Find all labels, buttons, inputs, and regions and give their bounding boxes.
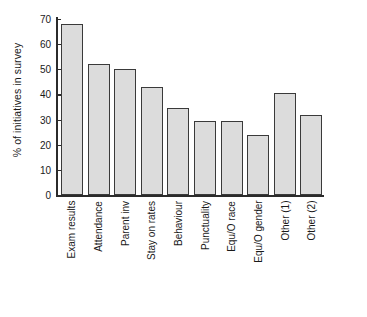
bar [300, 115, 322, 195]
plot-area: 010203040506070 [56, 19, 356, 195]
y-tick-label: 40 [40, 89, 51, 100]
bar [61, 24, 83, 195]
bars-layer [56, 19, 356, 195]
y-axis-title-text: % of initiatives in survey [11, 43, 23, 158]
bar [274, 93, 296, 195]
bar [221, 121, 243, 195]
x-axis-label: Equ/O gender [247, 199, 269, 309]
x-axis-label-text: Punctuality [200, 201, 211, 250]
y-tick-label: 0 [45, 190, 51, 201]
x-axis-label: Exam results [61, 199, 83, 309]
bar [194, 121, 216, 195]
bar-chart-figure: % of initiatives in survey 0102030405060… [0, 0, 367, 317]
x-axis-label: Behaviour [167, 199, 189, 309]
y-tick-mark [56, 195, 61, 196]
x-axis-label-text: Behaviour [173, 200, 184, 245]
x-axis-label-text: Parent inv [120, 200, 131, 245]
x-axis-label-text: Other (2) [306, 200, 317, 240]
y-axis-title: % of initiatives in survey [6, 0, 28, 200]
bar [167, 108, 189, 195]
x-axis-label: Other (2) [300, 199, 322, 309]
bar [141, 87, 163, 195]
x-axis-label-text: Attendance [93, 201, 104, 252]
x-axis-labels: Exam resultsAttendanceParent invStay on … [56, 199, 356, 317]
x-axis-line [56, 195, 324, 197]
x-axis-label-text: Other (1) [279, 200, 290, 240]
y-tick-label: 70 [40, 14, 51, 25]
x-axis-label: Punctuality [194, 199, 216, 309]
x-axis-label-text: Equ/O gender [253, 200, 264, 262]
y-tick-label: 30 [40, 114, 51, 125]
x-axis-label-text: Exam results [67, 201, 78, 259]
x-axis-label-text: Stay on rates [146, 201, 157, 260]
y-tick-label: 60 [40, 39, 51, 50]
x-axis-label: Stay on rates [141, 199, 163, 309]
y-tick-label: 50 [40, 64, 51, 75]
y-tick-label: 20 [40, 139, 51, 150]
x-axis-label: Parent inv [114, 199, 136, 309]
x-axis-label: Other (1) [274, 199, 296, 309]
x-axis-label-text: Equ/O race [226, 201, 237, 252]
bar [114, 69, 136, 195]
x-axis-label: Equ/O race [221, 199, 243, 309]
bar [88, 64, 110, 195]
y-tick-label: 10 [40, 164, 51, 175]
bar [247, 135, 269, 195]
x-axis-label: Attendance [88, 199, 110, 309]
